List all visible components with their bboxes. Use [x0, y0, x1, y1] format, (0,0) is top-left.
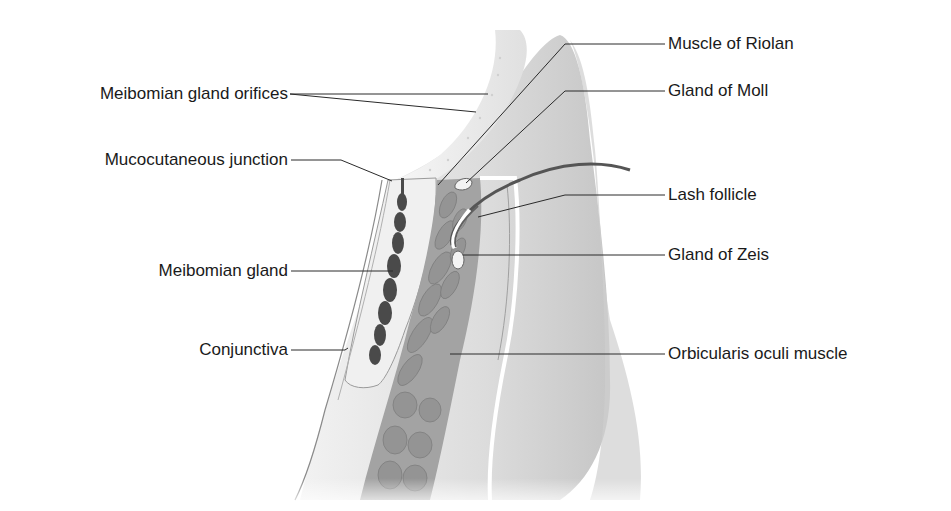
- label-orbicularis-oculi-muscle: Orbicularis oculi muscle: [668, 344, 848, 364]
- eyelid-illustration: [0, 0, 951, 511]
- label-meibomian-gland: Meibomian gland: [159, 261, 288, 281]
- label-meibomian-gland-orifices: Meibomian gland orifices: [100, 84, 288, 104]
- label-mucocutaneous-junction: Mucocutaneous junction: [105, 150, 288, 170]
- label-conjunctiva: Conjunctiva: [199, 340, 288, 360]
- label-muscle-of-riolan: Muscle of Riolan: [668, 34, 794, 54]
- label-gland-of-moll: Gland of Moll: [668, 81, 768, 101]
- label-gland-of-zeis: Gland of Zeis: [668, 245, 769, 265]
- eyelid-diagram: Meibomian gland orifices Mucocutaneous j…: [0, 0, 951, 511]
- label-lash-follicle: Lash follicle: [668, 185, 757, 205]
